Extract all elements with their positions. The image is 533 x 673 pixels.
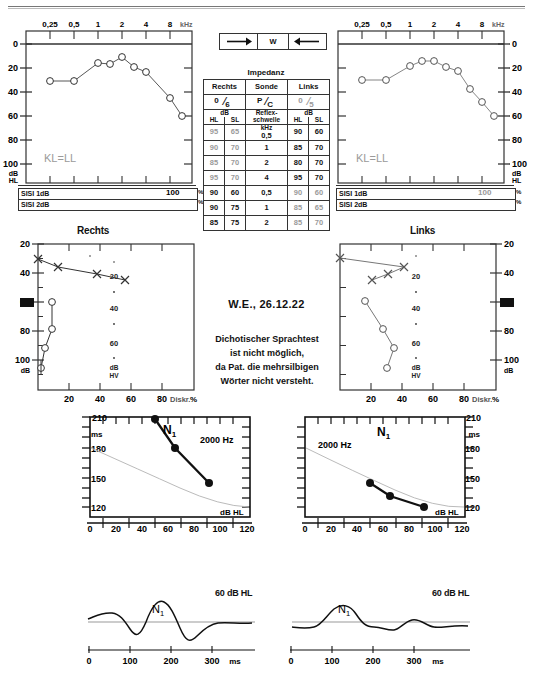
speech-audiogram-right-ear: 20 40 60 80 100 dB 20 40 60 80 Diskr. % … bbox=[4, 236, 204, 411]
reflex-right-hl[interactable]: 95 bbox=[204, 125, 225, 141]
sisi-1db-row[interactable]: SISI 1dB bbox=[337, 189, 515, 200]
left-compliance-cell[interactable]: 0⁄5 bbox=[288, 95, 330, 110]
reflex-right-sl[interactable]: 65 bbox=[225, 125, 246, 141]
impedance-row[interactable]: 85 70 2 80 70 bbox=[204, 155, 330, 170]
reference-marker-icon bbox=[20, 298, 34, 307]
reflex-right-hl[interactable]: 90 bbox=[204, 200, 225, 215]
speech-panel-label-left: Links bbox=[410, 225, 435, 236]
freq-tick-label: 2 bbox=[432, 20, 437, 29]
reflex-right-sl[interactable]: 75 bbox=[225, 200, 246, 215]
speech-inner-unit: dB bbox=[110, 364, 119, 371]
clinical-note-line: Dichotischer Sprachtest bbox=[196, 333, 338, 347]
waveform-x-tick: 100 bbox=[122, 656, 137, 666]
reflex-right-hl[interactable]: 90 bbox=[204, 140, 225, 155]
speech-inner-mark: 20 bbox=[110, 272, 118, 281]
speech-x-label: Diskr. bbox=[472, 395, 492, 404]
latency-x-tick: 120 bbox=[454, 524, 469, 534]
reflex-right-hl[interactable]: 90 bbox=[204, 185, 225, 200]
arrow-left-icon bbox=[289, 34, 326, 49]
reflex-left-sl[interactable]: 70 bbox=[309, 155, 330, 170]
reflex-left-hl[interactable]: 90 bbox=[288, 125, 309, 141]
clinical-note-line: da Pat. die mehrsilbigen bbox=[196, 361, 338, 375]
freq-tick-label: 0,5 bbox=[380, 20, 392, 29]
reflex-left-hl[interactable]: 85 bbox=[288, 215, 309, 230]
latency-x-tick: 40 bbox=[352, 524, 362, 534]
speech-inner-unit: HV bbox=[109, 372, 119, 379]
sisi-1db-row[interactable]: SISI 1dB bbox=[19, 189, 197, 200]
impedance-col-left: Links bbox=[288, 80, 330, 95]
waveform-x-tick: 300 bbox=[406, 656, 421, 666]
waveform-x-tick: 0 bbox=[288, 656, 293, 666]
patient-date-label: W.E., 26.12.22 bbox=[200, 298, 333, 310]
probe-compliance-cell[interactable]: P⁄C bbox=[246, 95, 288, 110]
reflex-left-sl[interactable]: 60 bbox=[309, 185, 330, 200]
speech-y-tick: 80 bbox=[20, 326, 30, 336]
reflex-left-sl[interactable]: 70 bbox=[309, 140, 330, 155]
db-tick-label: 100 bbox=[3, 159, 18, 169]
db-tick-label: 60 bbox=[512, 111, 522, 121]
speech-x-tick: 80 bbox=[459, 394, 469, 404]
right-compliance-cell[interactable]: 0⁄6 bbox=[204, 95, 246, 110]
impedance-row[interactable]: 90 75 1 85 65 bbox=[204, 200, 330, 215]
reflex-left-sl[interactable]: 70 bbox=[309, 215, 330, 230]
speech-y-tick: 100 bbox=[15, 355, 30, 365]
reflex-left-hl[interactable]: 95 bbox=[288, 170, 309, 185]
reflex-left-sl[interactable]: 70 bbox=[309, 170, 330, 185]
reflex-left-hl[interactable]: 85 bbox=[288, 200, 309, 215]
freq-tick-label: 8 bbox=[168, 20, 173, 29]
reflex-left-sl[interactable]: 60 bbox=[309, 125, 330, 141]
reflex-left-hl[interactable]: 85 bbox=[288, 140, 309, 155]
impedance-row[interactable]: 95 70 4 95 70 bbox=[204, 170, 330, 185]
waveform-x-tick: 300 bbox=[204, 656, 219, 666]
reflex-right-sl[interactable]: 70 bbox=[225, 155, 246, 170]
reflex-left-hl[interactable]: 80 bbox=[288, 155, 309, 170]
sisi-2db-row[interactable]: SISI 2dB bbox=[337, 200, 515, 210]
impedance-unit-row: dB HL SL Reflex- schwelle dB HL SL bbox=[204, 110, 330, 125]
speech-x-tick: 40 bbox=[95, 394, 105, 404]
reflex-right-sl[interactable]: 75 bbox=[225, 215, 246, 230]
freq-tick-label: 1 bbox=[96, 20, 101, 29]
reflex-left-sl[interactable]: 65 bbox=[309, 200, 330, 215]
latency-chart-right-ear: 210 ms 180 150 120 N1 2000 Hz bbox=[60, 410, 280, 535]
latency-x-tick: 120 bbox=[239, 524, 254, 534]
speech-inner-unit: dB bbox=[412, 364, 421, 371]
latency-y-tick: 120 bbox=[91, 503, 106, 513]
impedance-row[interactable]: 90 60 0,5 90 60 bbox=[204, 185, 330, 200]
sl-header-left: SL bbox=[309, 117, 329, 124]
latency-x-tick: 80 bbox=[404, 524, 414, 534]
db-tick-label: 20 bbox=[8, 63, 18, 73]
kl-ll-note: KL=LL bbox=[44, 152, 76, 164]
reflex-right-hl[interactable]: 85 bbox=[204, 155, 225, 170]
sisi-2db-row[interactable]: SISI 2dB bbox=[19, 200, 197, 210]
reflex-left-hl[interactable]: 90 bbox=[288, 185, 309, 200]
db-tick-label: 100 bbox=[512, 159, 527, 169]
impedance-row[interactable]: 90 70 1 85 70 bbox=[204, 140, 330, 155]
reflex-right-hl[interactable]: 95 bbox=[204, 170, 225, 185]
reflex-right-sl[interactable]: 70 bbox=[225, 140, 246, 155]
clinical-note: Dichotischer Sprachtest ist nicht möglic… bbox=[196, 333, 338, 389]
reflex-right-hl[interactable]: 85 bbox=[204, 215, 225, 230]
db-tick-label: 20 bbox=[512, 63, 522, 73]
impedance-table: Rechts Sonde Links 0⁄6 P⁄C 0⁄5 dB HL SL … bbox=[203, 79, 330, 231]
impedance-row[interactable]: 95 65 kHz 0,5 90 60 bbox=[204, 125, 330, 141]
speech-y-tick: 40 bbox=[504, 268, 514, 278]
latency-y-tick: 180 bbox=[465, 444, 480, 454]
latency-y-tick: 150 bbox=[465, 474, 480, 484]
sisi-box-left-ear: SISI 1dB SISI 2dB bbox=[336, 188, 516, 211]
freq-unit-label: kHz bbox=[180, 21, 193, 28]
speech-y-unit: dB bbox=[504, 367, 513, 374]
speech-x-tick: 60 bbox=[126, 394, 136, 404]
sl-header-right: SL bbox=[225, 117, 245, 124]
reflex-frequency: 0,5 bbox=[246, 132, 287, 140]
speech-y-tick: 40 bbox=[20, 268, 30, 278]
freq-tick-label: 0,5 bbox=[68, 20, 80, 29]
reflex-right-sl[interactable]: 70 bbox=[225, 170, 246, 185]
latency-curve-label: N1 bbox=[377, 425, 391, 441]
freq-tick-label: 0,25 bbox=[354, 20, 370, 29]
reflex-right-sl[interactable]: 60 bbox=[225, 185, 246, 200]
latency-x-tick: 60 bbox=[163, 524, 173, 534]
impedance-row[interactable]: 85 75 2 85 70 bbox=[204, 215, 330, 230]
latency-x-tick: 60 bbox=[378, 524, 388, 534]
db-tick-label: 0 bbox=[512, 39, 517, 49]
latency-x-tick: 100 bbox=[212, 524, 227, 534]
